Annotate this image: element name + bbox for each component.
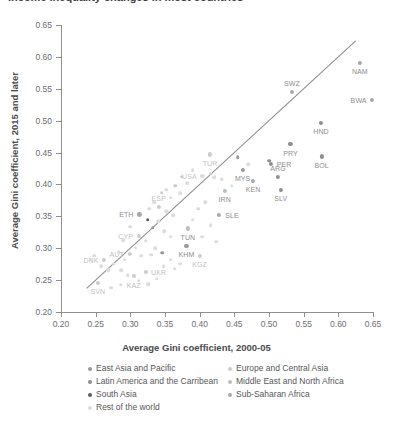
legend-label: Rest of the world xyxy=(96,402,160,412)
data-point[interactable] xyxy=(209,172,213,176)
data-point[interactable] xyxy=(106,268,110,272)
data-point[interactable] xyxy=(126,273,130,277)
data-point[interactable] xyxy=(276,175,280,179)
data-point[interactable] xyxy=(241,168,245,172)
data-point[interactable] xyxy=(155,277,159,281)
data-point[interactable] xyxy=(102,258,106,262)
data-point[interactable] xyxy=(178,192,182,196)
data-point[interactable] xyxy=(120,268,124,272)
data-point[interactable] xyxy=(146,218,150,222)
data-point[interactable] xyxy=(209,223,213,227)
data-point[interactable] xyxy=(162,264,166,268)
data-point[interactable] xyxy=(320,154,324,158)
data-point-label: BWA xyxy=(351,97,367,104)
data-point[interactable] xyxy=(109,286,113,290)
data-point-label: KGZ xyxy=(192,261,207,268)
data-point-label: KHM xyxy=(179,251,195,258)
data-point[interactable] xyxy=(153,246,157,250)
data-point[interactable] xyxy=(198,254,202,258)
data-point[interactable] xyxy=(169,235,173,239)
data-point[interactable] xyxy=(157,205,161,209)
data-point[interactable] xyxy=(290,90,294,94)
data-point[interactable] xyxy=(99,264,103,268)
data-point[interactable] xyxy=(137,212,141,216)
data-point[interactable] xyxy=(163,229,167,233)
data-point[interactable] xyxy=(165,188,169,192)
data-point[interactable] xyxy=(89,258,93,262)
data-point[interactable] xyxy=(180,175,184,179)
legend-dot-icon xyxy=(228,380,232,384)
data-point[interactable] xyxy=(174,184,178,188)
data-point[interactable] xyxy=(137,234,141,238)
data-point[interactable] xyxy=(144,239,148,243)
data-point[interactable] xyxy=(196,207,200,211)
data-point[interactable] xyxy=(140,254,144,258)
data-point[interactable] xyxy=(151,226,155,230)
data-point-label: IRN xyxy=(218,196,230,203)
data-point[interactable] xyxy=(169,196,173,200)
data-point[interactable] xyxy=(220,178,224,182)
data-point[interactable] xyxy=(149,253,153,257)
data-point[interactable] xyxy=(185,181,189,185)
legend-dot-icon xyxy=(88,380,92,384)
data-point[interactable] xyxy=(128,252,132,256)
data-point-label: MYS xyxy=(235,175,250,182)
data-point[interactable] xyxy=(143,270,147,274)
data-point-label: SLE xyxy=(225,212,239,219)
data-point[interactable] xyxy=(160,191,164,195)
data-point[interactable] xyxy=(217,213,221,217)
data-point[interactable] xyxy=(236,155,240,159)
legend-dot-icon xyxy=(88,367,92,371)
chart-title-cropped: Income inequality changes in most countr… xyxy=(0,0,393,7)
data-point[interactable] xyxy=(123,258,127,262)
data-point[interactable] xyxy=(246,162,250,166)
data-point[interactable] xyxy=(186,226,190,230)
data-point[interactable] xyxy=(156,220,160,224)
data-point[interactable] xyxy=(288,142,292,146)
data-point[interactable] xyxy=(223,189,227,193)
data-point[interactable] xyxy=(129,225,133,229)
data-point[interactable] xyxy=(319,120,323,124)
data-point[interactable] xyxy=(178,262,182,266)
data-point[interactable] xyxy=(122,238,126,242)
data-point[interactable] xyxy=(169,258,173,262)
data-point[interactable] xyxy=(208,152,212,156)
data-point[interactable] xyxy=(147,282,151,286)
data-point[interactable] xyxy=(184,244,188,248)
data-point[interactable] xyxy=(215,240,219,244)
data-point[interactable] xyxy=(358,61,362,65)
data-point[interactable] xyxy=(267,159,271,163)
data-point[interactable] xyxy=(165,209,169,213)
data-point[interactable] xyxy=(96,281,100,285)
data-point[interactable] xyxy=(134,246,138,250)
data-point[interactable] xyxy=(279,187,283,191)
data-point-label: ETH xyxy=(119,211,133,218)
data-point[interactable] xyxy=(191,218,195,222)
data-point[interactable] xyxy=(201,235,205,239)
data-point[interactable] xyxy=(132,274,136,278)
data-point[interactable] xyxy=(191,169,195,173)
data-point-label: SWZ xyxy=(284,80,300,87)
data-point[interactable] xyxy=(117,250,121,254)
data-point[interactable] xyxy=(173,267,177,271)
data-point[interactable] xyxy=(119,283,123,287)
data-point-label: PRY xyxy=(283,149,298,156)
data-point[interactable] xyxy=(200,173,204,177)
x-axis-label: Average Gini coefficient, 2000-05 xyxy=(0,342,393,353)
legend-dot-icon xyxy=(88,393,92,397)
data-point-label: NAM xyxy=(352,68,368,75)
data-point[interactable] xyxy=(212,176,216,180)
data-point[interactable] xyxy=(112,262,116,266)
data-point[interactable] xyxy=(152,201,156,205)
data-point[interactable] xyxy=(251,179,255,183)
data-point[interactable] xyxy=(230,184,234,188)
legend-label: East Asia and Pacific xyxy=(96,363,175,373)
data-point-label: CYP xyxy=(118,233,133,240)
data-point[interactable] xyxy=(203,201,207,205)
data-point-label: TUR xyxy=(203,159,218,166)
data-point[interactable] xyxy=(92,254,96,258)
data-point[interactable] xyxy=(160,251,164,255)
data-point[interactable] xyxy=(137,279,141,283)
data-point[interactable] xyxy=(147,207,151,211)
data-point[interactable] xyxy=(172,213,176,217)
